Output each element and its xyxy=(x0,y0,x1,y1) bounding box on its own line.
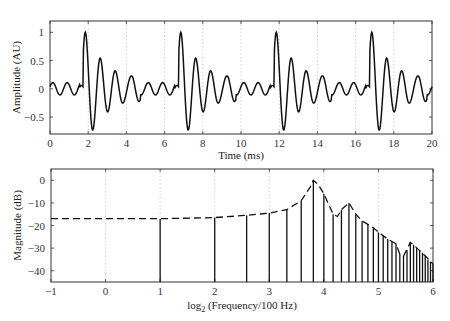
x-tick-label: 12 xyxy=(274,137,285,149)
x-tick-label: 2 xyxy=(85,137,91,149)
x-tick-label: 20 xyxy=(427,137,439,149)
x-tick-label: 0 xyxy=(47,137,53,149)
x-tick-label: 14 xyxy=(312,137,324,149)
y-tick-label: 1 xyxy=(39,26,45,38)
x-tick-label: 18 xyxy=(388,137,400,149)
y-tick-label: −20 xyxy=(28,220,46,232)
y-tick-label: 0.5 xyxy=(30,55,44,67)
x-tick-label: 10 xyxy=(236,137,248,149)
y-axis-label: Magnitude (dB) xyxy=(11,190,24,261)
x-tick-label: 4 xyxy=(321,285,327,297)
x-tick-label: 8 xyxy=(200,137,206,149)
x-tick-label: 4 xyxy=(124,137,130,149)
x-tick-label: 16 xyxy=(350,137,362,149)
time-domain-plot: 02468101214161820−0.500.51Amplitude (AU)… xyxy=(10,21,438,162)
x-tick-label: 3 xyxy=(267,285,273,297)
y-axis-label: Amplitude (AU) xyxy=(10,41,23,114)
y-tick-label: −40 xyxy=(28,265,46,277)
axes-frame xyxy=(51,169,433,282)
figure: 02468101214161820−0.500.51Amplitude (AU)… xyxy=(0,0,450,321)
x-tick-label: 6 xyxy=(430,285,436,297)
y-tick-label: −0.5 xyxy=(24,111,44,123)
x-tick-label: 0 xyxy=(103,285,109,297)
x-tick-label: 2 xyxy=(212,285,218,297)
y-tick-label: −30 xyxy=(28,242,46,254)
y-tick-label: −10 xyxy=(28,197,46,209)
x-tick-label: −1 xyxy=(45,285,57,297)
x-axis-label: log2 (Frequency/100 Hz) xyxy=(187,299,297,314)
y-tick-label: 0 xyxy=(40,174,46,186)
spectrum-plot: −101234560−10−20−30−40Magnitude (dB)log2… xyxy=(11,169,436,314)
x-tick-label: 5 xyxy=(376,285,382,297)
x-tick-label: 6 xyxy=(162,137,168,149)
spectral-envelope-line xyxy=(51,180,433,264)
y-tick-label: 0 xyxy=(39,83,45,95)
x-axis-label: Time (ms) xyxy=(218,149,264,162)
x-tick-label: 1 xyxy=(157,285,163,297)
